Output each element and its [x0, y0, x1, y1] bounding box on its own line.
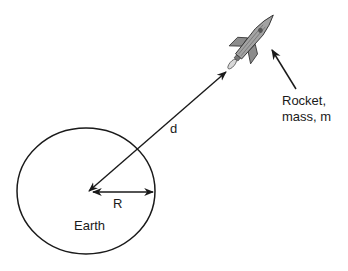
- distance-label: d: [170, 121, 177, 136]
- radius-label: R: [113, 196, 122, 211]
- rocket-icon: [218, 6, 284, 78]
- earth-rocket-diagram: d R Earth Rocket, mass, m: [0, 0, 348, 271]
- rocket-label-line1: Rocket,: [282, 93, 326, 108]
- earth-label: Earth: [74, 218, 105, 233]
- earth-circle: [17, 128, 155, 254]
- rocket-label-line2: mass, m: [282, 109, 331, 124]
- rocket-pointer-arrow: [272, 50, 296, 89]
